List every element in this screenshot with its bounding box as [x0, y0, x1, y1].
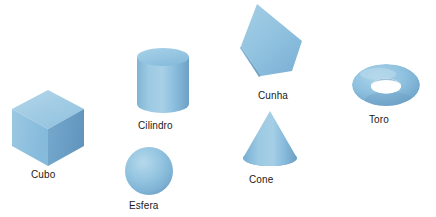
torus-label: Toro — [369, 114, 389, 125]
cube-label: Cubo — [31, 169, 55, 180]
sphere-body — [125, 147, 173, 195]
cylinder-shape — [136, 47, 190, 115]
cylinder-top-face — [137, 48, 189, 66]
cylinder-label: Cilindro — [138, 120, 173, 131]
sphere-label: Esfera — [129, 200, 159, 211]
shapes-diagram: Cubo Cilindro — [0, 0, 436, 217]
wedge-label: Cunha — [258, 90, 288, 101]
torus-shape — [351, 62, 421, 108]
cone-label: Cone — [249, 174, 273, 185]
cone-body — [243, 111, 297, 166]
wedge-main-face — [241, 4, 302, 76]
cube-shape — [10, 88, 86, 168]
wedge-shape — [238, 3, 310, 83]
cone-shape — [242, 110, 298, 168]
sphere-shape — [124, 146, 174, 196]
